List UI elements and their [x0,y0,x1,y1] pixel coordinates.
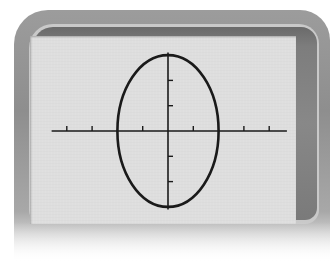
graph-plot [0,0,336,262]
coordinate-axes [52,53,287,210]
